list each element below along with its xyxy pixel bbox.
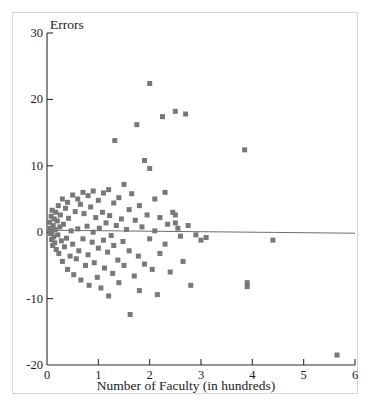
data-point xyxy=(107,213,112,218)
data-point xyxy=(58,212,63,217)
data-point xyxy=(100,210,105,215)
data-point xyxy=(55,218,60,223)
data-point xyxy=(86,193,91,198)
data-point xyxy=(81,211,86,216)
data-point xyxy=(122,182,127,187)
data-point xyxy=(173,220,178,225)
data-point xyxy=(152,197,157,202)
data-point xyxy=(90,240,95,245)
data-point xyxy=(65,267,70,272)
data-point xyxy=(111,200,116,205)
data-point xyxy=(152,228,157,233)
x-tick-label: 0 xyxy=(44,368,50,383)
data-point xyxy=(168,270,173,275)
data-point xyxy=(137,203,142,208)
data-point xyxy=(116,280,121,285)
data-point xyxy=(186,223,191,228)
data-point xyxy=(129,191,134,196)
data-point xyxy=(127,248,132,253)
data-point xyxy=(173,109,178,114)
data-point xyxy=(76,248,81,253)
data-point xyxy=(59,238,64,243)
data-point xyxy=(157,251,162,256)
data-point xyxy=(101,191,106,196)
data-point xyxy=(96,198,101,203)
data-point xyxy=(165,222,170,227)
x-tick-label: 3 xyxy=(198,368,204,383)
data-point xyxy=(64,236,69,241)
y-tick-label: -20 xyxy=(26,358,43,373)
data-point xyxy=(181,259,186,264)
data-point xyxy=(106,187,111,192)
data-point xyxy=(78,202,83,207)
data-point xyxy=(102,266,107,271)
tick-marks xyxy=(47,33,355,365)
data-point xyxy=(63,206,68,211)
data-point xyxy=(55,232,60,237)
x-tick-label: 1 xyxy=(95,368,101,383)
data-point xyxy=(114,223,119,228)
data-point xyxy=(88,204,93,209)
data-point xyxy=(120,239,125,244)
data-point xyxy=(92,260,97,265)
data-point xyxy=(56,251,61,256)
data-point xyxy=(60,259,65,264)
data-point xyxy=(147,236,152,241)
data-point xyxy=(242,147,247,152)
data-point xyxy=(157,215,162,220)
data-point xyxy=(128,312,133,317)
data-point xyxy=(204,235,209,240)
data-point xyxy=(136,254,141,259)
data-point xyxy=(111,243,116,248)
data-point xyxy=(85,224,90,229)
data-point xyxy=(83,263,88,268)
data-point xyxy=(78,278,83,283)
data-point xyxy=(124,227,129,232)
data-point xyxy=(73,209,78,214)
data-point xyxy=(199,238,204,243)
data-point xyxy=(97,226,102,231)
data-point xyxy=(160,114,165,119)
data-point xyxy=(93,215,98,220)
x-tick-label: 2 xyxy=(147,368,153,383)
data-point xyxy=(245,284,250,289)
data-point xyxy=(133,218,138,223)
data-point xyxy=(105,250,110,255)
data-point xyxy=(106,293,111,298)
data-point xyxy=(127,207,132,212)
data-point xyxy=(145,212,150,217)
data-point xyxy=(53,227,58,232)
data-point xyxy=(193,232,198,237)
data-point xyxy=(52,240,57,245)
data-point xyxy=(61,222,66,227)
data-point xyxy=(70,193,75,198)
data-point xyxy=(86,252,91,257)
data-point xyxy=(109,233,114,238)
data-point xyxy=(188,283,193,288)
data-point xyxy=(68,254,73,259)
data-point xyxy=(150,267,155,272)
data-point xyxy=(56,203,61,208)
y-tick-label: 0 xyxy=(37,225,43,240)
data-point xyxy=(98,285,103,290)
data-point xyxy=(104,220,109,225)
data-point xyxy=(270,238,275,243)
data-point xyxy=(80,190,85,195)
data-point xyxy=(116,195,121,200)
data-point xyxy=(132,274,137,279)
data-point xyxy=(91,230,96,235)
data-point xyxy=(71,272,76,277)
data-point xyxy=(91,189,96,194)
data-point xyxy=(53,210,58,215)
data-point xyxy=(183,112,188,117)
data-point xyxy=(65,200,70,205)
y-tick-label: 20 xyxy=(31,92,44,107)
data-point xyxy=(75,226,80,231)
x-tick-label: 6 xyxy=(352,368,358,383)
data-point xyxy=(122,263,127,268)
x-tick-label: 5 xyxy=(301,368,307,383)
y-tick-label: 30 xyxy=(31,26,44,41)
data-point xyxy=(101,238,106,243)
plot-canvas xyxy=(0,0,372,415)
data-point xyxy=(178,234,183,239)
